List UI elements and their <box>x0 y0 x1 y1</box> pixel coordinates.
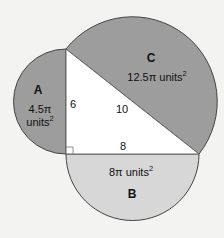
semicircle-b-area: 8π units2 <box>109 164 153 178</box>
side-label-hypotenuse: 10 <box>116 103 128 115</box>
pythagorean-semicircles-diagram: C 12.5π units2 A 4.5π units2 6 10 8 8π u… <box>0 0 224 238</box>
semicircle-b-label: B <box>128 187 137 201</box>
semicircle-c-area: 12.5π units2 <box>127 69 186 83</box>
side-label-horizontal: 8 <box>120 140 126 152</box>
semicircle-a-area-line1: 4.5π <box>29 103 52 115</box>
semicircle-a-label: A <box>34 83 43 97</box>
semicircle-a <box>14 49 67 154</box>
side-label-vertical: 6 <box>70 98 76 110</box>
diagram-stage: C 12.5π units2 A 4.5π units2 6 10 8 8π u… <box>0 0 224 238</box>
semicircle-c-label: C <box>147 51 156 65</box>
